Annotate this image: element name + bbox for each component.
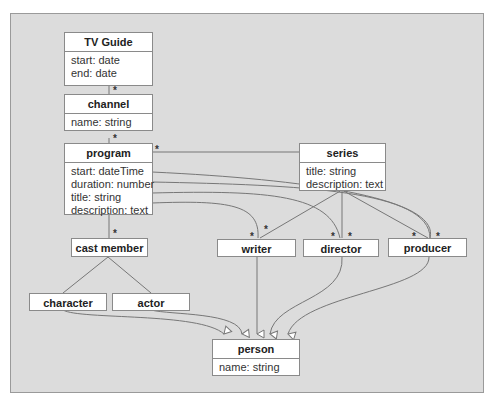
multiplicity-label: * (331, 232, 335, 242)
link-program-writer (152, 202, 258, 238)
class-name: person (213, 340, 299, 358)
link-program-producer-2 (152, 172, 431, 238)
link-castmember-character (63, 257, 108, 293)
class-actor[interactable]: actor (112, 293, 190, 311)
multiplicity-label: * (436, 232, 440, 242)
multiplicity-label: * (113, 229, 117, 239)
link-program-director (152, 192, 340, 238)
class-tvguide[interactable]: TV Guide start: date end: date (64, 32, 153, 86)
attribute: start: date (71, 54, 146, 67)
class-program[interactable]: program start: dateTime duration: number… (64, 143, 153, 215)
class-name: producer (389, 239, 466, 257)
multiplicity-label: * (348, 232, 352, 242)
class-character[interactable]: character (29, 293, 107, 311)
multiplicity-label: * (250, 232, 254, 242)
multiplicity-label: * (113, 86, 117, 96)
class-name: writer (218, 240, 295, 258)
class-name: actor (113, 294, 189, 312)
attribute: name: string (219, 361, 293, 374)
attribute: description: text (71, 204, 146, 217)
link-castmember-actor (108, 257, 151, 293)
multiplicity-label: * (412, 232, 416, 242)
attribute: title: string (71, 191, 146, 204)
attribute: end: date (71, 67, 146, 80)
class-cast-member[interactable]: cast member (71, 238, 148, 257)
class-name: series (300, 144, 385, 162)
class-producer[interactable]: producer (388, 238, 467, 257)
link-actor-person (151, 310, 242, 334)
class-series[interactable]: series title: string description: text (299, 143, 386, 191)
class-writer[interactable]: writer (217, 239, 296, 257)
attribute: description: text (306, 178, 379, 191)
attribute: name: string (71, 116, 146, 129)
class-director[interactable]: director (303, 239, 379, 257)
link-program-producer (152, 182, 430, 238)
multiplicity-label: * (155, 145, 159, 155)
class-name: cast member (72, 239, 147, 257)
class-attributes: start: date end: date (65, 51, 152, 83)
class-name: character (30, 294, 106, 312)
attribute: duration: number (71, 178, 146, 191)
link-character-person (63, 310, 224, 334)
multiplicity-label: * (113, 134, 117, 144)
multiplicity-label: * (264, 225, 268, 235)
class-channel[interactable]: channel name: string (64, 94, 153, 131)
attribute: start: dateTime (71, 165, 146, 178)
class-attributes: start: dateTime duration: number title: … (65, 162, 152, 220)
link-producer-person (288, 257, 429, 334)
attribute: title: string (306, 165, 379, 178)
class-name: director (304, 240, 378, 258)
class-name: channel (65, 95, 152, 113)
class-name: TV Guide (65, 33, 152, 51)
class-attributes: title: string description: text (300, 162, 385, 194)
link-series-writer (260, 190, 342, 238)
class-person[interactable]: person name: string (212, 339, 300, 376)
class-name: program (65, 144, 152, 162)
link-director-person (270, 257, 342, 334)
class-attributes: name: string (65, 113, 152, 132)
class-attributes: name: string (213, 358, 299, 377)
